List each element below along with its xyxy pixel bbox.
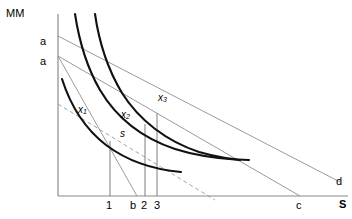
- y-intercept-label-a-lower: a: [40, 56, 46, 67]
- x-tick-label-3: 3: [154, 200, 160, 211]
- y-intercept-label-a-upper: a: [40, 36, 46, 47]
- figure-canvas: MM S a a 1 b 2 3 c d x1 x2 x3 s: [0, 0, 352, 219]
- x-tick-label-b: b: [130, 200, 136, 211]
- x-tick-label-1: 1: [106, 200, 112, 211]
- curve-label-x3: x3: [158, 93, 167, 103]
- curve-label-x2: x2: [121, 110, 130, 120]
- x-axis-title: S: [339, 199, 346, 210]
- line-end-label-d: d: [336, 176, 342, 187]
- indifference-curve-x2: [95, 14, 249, 160]
- curve-label-x1-sub: 1: [83, 108, 87, 115]
- x-tick-label-c: c: [296, 200, 302, 211]
- curve-label-x3-sub: 3: [163, 96, 167, 103]
- curve-label-s-base: s: [120, 128, 125, 139]
- diagram-svg: [0, 0, 352, 219]
- x-tick-label-2: 2: [141, 200, 147, 211]
- curve-label-x1: x1: [78, 105, 87, 115]
- budget-line-steep-a-to-b: [58, 56, 137, 196]
- curve-label-x2-sub: 2: [126, 113, 130, 120]
- y-axis-title: MM: [6, 8, 25, 19]
- budget-line-upper-a-to-d: [58, 36, 340, 182]
- curve-label-s: s: [120, 129, 125, 139]
